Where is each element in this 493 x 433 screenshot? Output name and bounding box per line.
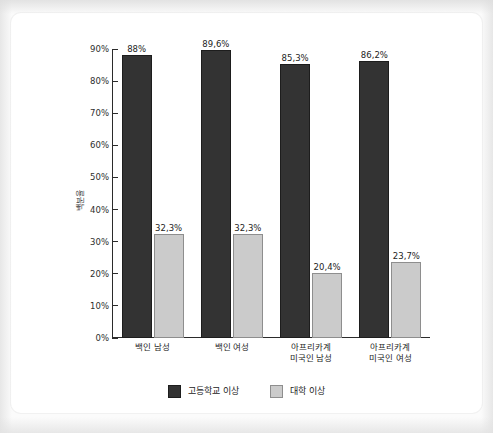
y-axis-tick: 10% bbox=[69, 301, 118, 311]
y-axis-tick-label: 30% bbox=[90, 237, 109, 247]
bar-college[interactable]: 32,3% bbox=[233, 234, 263, 338]
legend-item[interactable]: 대학 이상 bbox=[270, 385, 325, 398]
bar-group: 86,2%23,7% bbox=[359, 49, 421, 338]
chart-card: 백분율 0%10%20%30%40%50%60%70%80%90% 88%32,… bbox=[11, 13, 482, 413]
y-axis-tick: 40% bbox=[69, 205, 118, 215]
y-axis-tick-label: 90% bbox=[90, 44, 109, 54]
legend-label: 고등학교 이상 bbox=[188, 386, 239, 397]
y-axis-tick: 50% bbox=[69, 172, 118, 182]
bar-group: 85,3%20,4% bbox=[280, 49, 342, 338]
legend-label: 대학 이상 bbox=[290, 386, 325, 397]
bar-value-label: 32,3% bbox=[234, 223, 261, 233]
bar-value-label: 88% bbox=[127, 44, 146, 54]
y-axis-tick-label: 50% bbox=[90, 172, 109, 182]
chart-legend: 고등학교 이상대학 이상 bbox=[11, 385, 482, 398]
bar-group: 88%32,3% bbox=[122, 49, 184, 338]
y-axis-tick-label: 60% bbox=[90, 140, 109, 150]
bar-college[interactable]: 20,4% bbox=[312, 273, 342, 339]
y-axis-tick: 80% bbox=[69, 76, 118, 86]
y-axis-tick: 70% bbox=[69, 108, 118, 118]
x-axis-category-label: 백인 남성 bbox=[113, 342, 192, 353]
chart-plot-area: 백분율 0%10%20%30%40%50%60%70%80%90% 88%32,… bbox=[11, 13, 482, 413]
bar-value-label: 23,7% bbox=[393, 251, 420, 261]
bar-high-school[interactable]: 88% bbox=[122, 55, 152, 338]
bar-college[interactable]: 23,7% bbox=[391, 262, 421, 338]
bar-value-label: 32,3% bbox=[155, 223, 182, 233]
y-axis-tick-label: 10% bbox=[90, 301, 109, 311]
y-axis-tick-label: 80% bbox=[90, 76, 109, 86]
x-axis-category-label: 아프리카계 미국인 남성 bbox=[272, 342, 351, 364]
y-axis-tick: 60% bbox=[69, 140, 118, 150]
bar-value-label: 86,2% bbox=[361, 50, 388, 60]
legend-swatch-icon bbox=[270, 385, 283, 398]
y-axis-tick: 90% bbox=[69, 44, 118, 54]
bar-high-school[interactable]: 89,6% bbox=[201, 50, 231, 338]
y-axis-tick-label: 0% bbox=[96, 333, 110, 343]
bar-value-label: 85,3% bbox=[282, 53, 309, 63]
legend-item[interactable]: 고등학교 이상 bbox=[168, 385, 239, 398]
page-root: 백분율 0%10%20%30%40%50%60%70%80%90% 88%32,… bbox=[0, 0, 493, 433]
bar-college[interactable]: 32,3% bbox=[154, 234, 184, 338]
x-axis-category-label: 백인 여성 bbox=[192, 342, 271, 353]
y-axis-tick: 20% bbox=[69, 269, 118, 279]
bar-group: 89,6%32,3% bbox=[201, 49, 263, 338]
bar-series-layer: 88%32,3%89,6%32,3%85,3%20,4%86,2%23,7% bbox=[113, 49, 430, 338]
bar-value-label: 89,6% bbox=[202, 39, 229, 49]
x-axis-category-label: 아프리카계 미국인 여성 bbox=[351, 342, 430, 364]
bar-value-label: 20,4% bbox=[314, 262, 341, 272]
bar-high-school[interactable]: 85,3% bbox=[280, 64, 310, 338]
y-axis-tick: 30% bbox=[69, 237, 118, 247]
y-axis-tick-label: 20% bbox=[90, 269, 109, 279]
y-axis-tick: 0% bbox=[69, 333, 118, 343]
bar-high-school[interactable]: 86,2% bbox=[359, 61, 389, 338]
legend-swatch-icon bbox=[168, 385, 181, 398]
y-axis-tick-label: 40% bbox=[90, 205, 109, 215]
y-axis-tick-label: 70% bbox=[90, 108, 109, 118]
x-axis-category-labels: 백인 남성백인 여성아프리카계 미국인 남성아프리카계 미국인 여성 bbox=[113, 342, 430, 378]
